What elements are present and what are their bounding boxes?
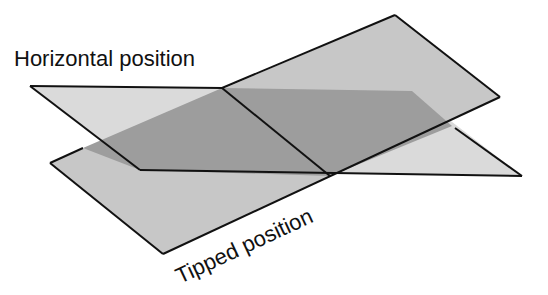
plane-diagram: Horizontal position Tipped position [0, 0, 548, 295]
horizontal-position-label: Horizontal position [14, 46, 195, 71]
diagram-canvas: Horizontal position Tipped position [0, 0, 548, 295]
